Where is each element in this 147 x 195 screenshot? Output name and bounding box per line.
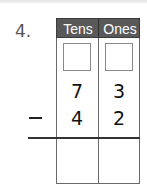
answer-cell-ones[interactable] (99, 139, 139, 183)
bottom-border (56, 183, 140, 184)
regroup-box-tens[interactable] (63, 43, 91, 71)
minus-sign-icon (29, 117, 42, 119)
subtrahend-ones: 2 (98, 107, 140, 129)
place-value-table: Tens Ones 7 3 4 2 (56, 18, 140, 184)
table-header: Tens Ones (56, 18, 140, 38)
top-divider (0, 0, 147, 3)
sum-line (28, 137, 140, 139)
header-tens: Tens (57, 19, 99, 39)
regroup-box-ones[interactable] (105, 43, 133, 71)
subtrahend-tens: 4 (56, 107, 98, 129)
minuend-ones: 3 (98, 80, 140, 102)
header-ones: Ones (99, 19, 141, 39)
minuend-tens: 7 (56, 80, 98, 102)
answer-cell-tens[interactable] (57, 139, 98, 183)
question-number: 4. (15, 21, 31, 41)
